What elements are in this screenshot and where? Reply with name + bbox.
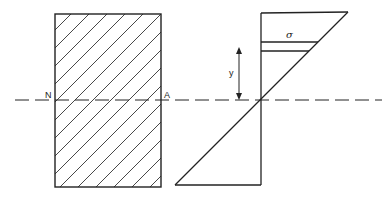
label-a: A xyxy=(164,90,170,100)
y-dimension-arrow xyxy=(236,47,242,100)
section-hatching xyxy=(55,8,167,197)
label-n: N xyxy=(45,90,52,100)
diagram-canvas: N A σ y xyxy=(0,0,382,197)
stress-diagram xyxy=(175,12,348,185)
label-y: y xyxy=(229,68,234,78)
label-sigma: σ xyxy=(286,29,294,40)
stress-top-edge xyxy=(261,12,348,13)
